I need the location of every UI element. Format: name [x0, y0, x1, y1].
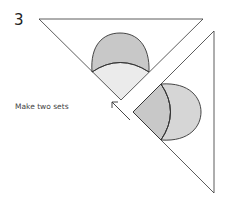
arrow-up-left-icon [112, 102, 130, 120]
right-dark-region [133, 84, 171, 140]
diagram-canvas [0, 0, 229, 197]
